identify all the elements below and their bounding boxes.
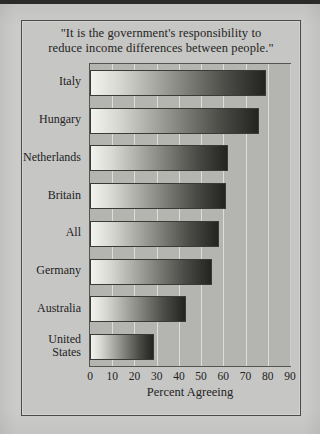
bar-italy (90, 70, 266, 96)
chart-title-line-1: "It is the government's responsibility t… (28, 26, 294, 41)
bar-row (90, 145, 228, 171)
x-tick-10: 10 (106, 369, 118, 383)
bar-germany (90, 259, 212, 285)
y-label-hungary: Hungary (39, 113, 81, 126)
x-tick-50: 50 (195, 369, 207, 383)
bar-hungary (90, 108, 259, 134)
x-axis-title: Percent Agreeing (89, 385, 291, 400)
bar-row (90, 221, 219, 247)
bar-row (90, 70, 266, 96)
plot-area (89, 63, 291, 367)
chart-title-line-2: reduce income differences between people… (28, 41, 294, 56)
bar-series (90, 64, 290, 366)
bar-row (90, 296, 186, 322)
x-tick-90: 90 (284, 369, 296, 383)
bar-britain (90, 183, 226, 209)
bar-australia (90, 296, 186, 322)
bar-row (90, 183, 226, 209)
bar-row (90, 259, 212, 285)
bar-netherlands (90, 145, 228, 171)
y-label-britain: Britain (48, 189, 81, 202)
x-tick-80: 80 (262, 369, 274, 383)
y-label-netherlands: Netherlands (23, 151, 81, 164)
y-label-italy: Italy (59, 75, 81, 88)
x-tick-0: 0 (87, 369, 93, 383)
bar-row (90, 334, 154, 360)
x-tick-40: 40 (173, 369, 185, 383)
x-tick-30: 30 (151, 369, 163, 383)
bar-row (90, 108, 259, 134)
scan-top-band (0, 0, 320, 4)
gridline-90 (290, 64, 291, 366)
y-label-all: All (66, 226, 81, 239)
x-tick-60: 60 (218, 369, 230, 383)
bar-united-states (90, 334, 154, 360)
figure-frame: "It is the government's responsibility t… (21, 20, 301, 416)
x-tick-70: 70 (240, 369, 252, 383)
x-axis-tick-labels: 0102030405060708090 (89, 369, 291, 385)
chart-title: "It is the government's responsibility t… (28, 26, 294, 56)
y-label-germany: Germany (36, 264, 81, 277)
y-label-australia: Australia (37, 302, 81, 315)
y-label-united-states: United States (48, 333, 81, 359)
bar-all (90, 221, 219, 247)
y-axis-labels: ItalyHungaryNetherlandsBritainAllGermany… (22, 63, 85, 367)
x-tick-20: 20 (129, 369, 141, 383)
